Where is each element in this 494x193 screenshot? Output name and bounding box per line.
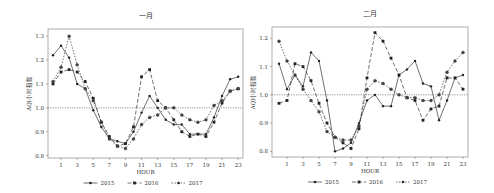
marker-circle — [116, 140, 118, 142]
marker-circle — [334, 150, 336, 152]
marker-star — [204, 118, 207, 121]
marker-square — [430, 108, 433, 111]
marker-star — [334, 136, 337, 139]
marker-square — [197, 133, 200, 136]
marker-square — [68, 68, 71, 71]
marker-circle — [374, 94, 376, 96]
legend-item-2015: 2015 — [308, 179, 339, 185]
marker-circle — [350, 142, 352, 144]
marker-star — [414, 96, 417, 99]
marker-square — [188, 135, 191, 138]
legend-label: 2015 — [325, 179, 339, 185]
y-tick-label: 1.2 — [35, 57, 44, 63]
marker-star — [237, 87, 240, 90]
marker-square — [140, 75, 143, 78]
marker-star — [374, 79, 377, 82]
marker-star — [278, 40, 281, 43]
x-tick-label: 13 — [154, 162, 161, 168]
marker-square — [390, 57, 393, 60]
x-tick-label: 15 — [396, 161, 403, 167]
marker-square — [294, 62, 297, 65]
marker-circle — [278, 63, 280, 65]
marker-star — [342, 139, 345, 142]
series-2015 — [278, 51, 464, 152]
marker-circle — [310, 51, 312, 53]
marker-star — [454, 59, 457, 62]
marker-circle — [213, 116, 215, 118]
y-tick-label: 0.8 — [259, 148, 268, 154]
marker-square — [382, 40, 385, 43]
marker-star — [286, 59, 289, 62]
marker-square — [278, 102, 281, 105]
marker-square — [148, 68, 151, 71]
marker-star — [462, 51, 465, 54]
marker-star — [350, 139, 353, 142]
marker-star — [92, 99, 95, 102]
marker-square — [60, 71, 63, 74]
marker-star — [302, 88, 305, 91]
marker-square — [76, 71, 79, 74]
legend-item-2017: 2017 — [396, 179, 427, 185]
y-tick-label: 0.9 — [35, 129, 44, 135]
y-tick-label: 1.0 — [259, 92, 268, 98]
marker-star — [108, 137, 111, 140]
marker-circle — [229, 78, 231, 80]
marker-square — [205, 135, 208, 138]
marker-star — [156, 114, 159, 117]
marker-star — [318, 110, 321, 113]
marker-star — [132, 137, 135, 140]
marker-circle — [326, 99, 328, 101]
marker-circle — [390, 105, 392, 107]
marker-circle — [422, 82, 424, 84]
marker-star — [60, 66, 63, 69]
y-tick-label: 0.9 — [259, 120, 268, 126]
marker-circle — [76, 83, 78, 85]
marker-star — [294, 74, 297, 77]
marker-circle — [148, 95, 150, 97]
marker-star — [406, 96, 409, 99]
marker-circle — [156, 107, 158, 109]
marker-square — [446, 76, 449, 79]
marker-star — [446, 71, 449, 74]
x-tick-label: 19 — [428, 161, 435, 167]
marker-circle — [237, 76, 239, 78]
marker-square — [326, 122, 329, 125]
legend-label: 2017 — [413, 179, 427, 185]
x-tick-label: 7 — [108, 162, 112, 168]
marker-square — [414, 99, 417, 102]
marker-star — [52, 80, 55, 83]
marker-circle — [181, 123, 183, 125]
marker-star — [390, 88, 393, 91]
marker-square — [350, 147, 353, 150]
marker-star — [438, 93, 441, 96]
marker-square — [342, 141, 345, 144]
legend-label: 2016 — [145, 180, 159, 186]
y-tick-label: 1.0 — [35, 105, 44, 111]
x-tick-label: 21 — [219, 162, 226, 168]
marker-star — [229, 90, 232, 93]
marker-star — [196, 121, 199, 124]
marker-circle — [60, 45, 62, 47]
x-tick-label: 21 — [444, 161, 451, 167]
marker-square — [374, 31, 377, 34]
marker-square — [180, 130, 183, 133]
x-tick-label: 3 — [301, 161, 305, 167]
x-tick-label: 9 — [349, 161, 353, 167]
marker-square — [286, 99, 289, 102]
x-tick-label: 9 — [124, 162, 128, 168]
x-tick-label: 23 — [460, 161, 467, 167]
marker-circle — [430, 85, 432, 87]
x-tick-label: 5 — [92, 162, 96, 168]
marker-square — [310, 79, 313, 82]
y-tick-label: 1.1 — [259, 64, 268, 70]
marker-star — [180, 114, 183, 117]
marker-circle — [342, 147, 344, 149]
x-tick-label: 17 — [412, 161, 419, 167]
marker-square — [462, 88, 465, 91]
marker-circle — [165, 119, 167, 121]
legend-label: 2015 — [101, 180, 115, 186]
marker-star — [116, 145, 119, 148]
plot-frame — [272, 27, 468, 157]
series-2015 — [52, 45, 240, 145]
marker-star — [140, 123, 143, 126]
